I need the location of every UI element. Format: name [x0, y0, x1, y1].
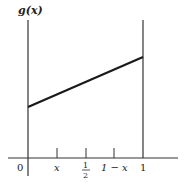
tick-label-half-numerator: 1: [83, 161, 88, 170]
origin-label: 0: [17, 162, 23, 173]
tick-label-half-denominator: 2: [83, 171, 88, 180]
y-axis-label: g(x): [18, 4, 43, 17]
g-of-x-line: [28, 57, 143, 107]
tick-label-x: x: [54, 162, 60, 173]
tick-label-one: 1: [140, 162, 146, 173]
tick-label-one-minus-x: 1 − x: [101, 162, 128, 173]
function-diagram: g(x) 0 x 1 2 1 − x 1: [0, 0, 188, 190]
